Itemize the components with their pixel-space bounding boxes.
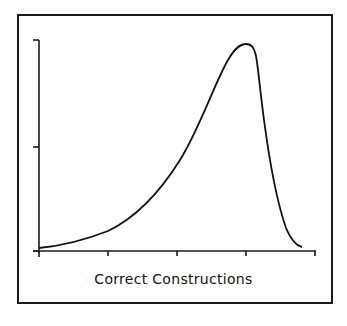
distribution-curve <box>39 44 302 248</box>
x-axis-label: Correct Constructions <box>0 271 347 287</box>
